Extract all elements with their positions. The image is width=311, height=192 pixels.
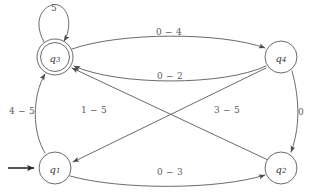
- edge-label-q4-to-q2: 0: [298, 107, 304, 117]
- state-node-q3[interactable]: q3: [37, 39, 73, 75]
- edge-label-q1-to-q3: 4 − 5: [9, 106, 35, 116]
- state-node-q2[interactable]: q2: [265, 152, 297, 184]
- edge-label-q4-to-q3: 0 − 2: [157, 71, 183, 81]
- edge-label-q2-to-q3: 3 − 5: [214, 105, 240, 115]
- state-node-q1[interactable]: q1: [39, 152, 71, 184]
- automaton-svg: q3 q4 q1 q2 5 0 − 4 0 − 2 4 − 5: [0, 0, 311, 192]
- states-layer: q3 q4 q1 q2: [37, 39, 297, 184]
- edge-q1-to-q3-left[interactable]: [35, 74, 45, 153]
- state-diagram-canvas: q3 q4 q1 q2 5 0 − 4 0 − 2 4 − 5: [0, 0, 311, 192]
- edge-labels-layer: 5 0 − 4 0 − 2 4 − 5 1 − 5 3 − 5 0 0 − 3: [9, 3, 304, 177]
- edge-label-q1-to-q2: 0 − 3: [157, 167, 183, 177]
- edge-label-q4-to-q1: 1 − 5: [81, 105, 107, 115]
- edge-label-q3-to-q4: 0 − 4: [156, 27, 182, 37]
- edge-label-q3-self-loop: 5: [51, 3, 57, 13]
- edge-q3-to-q4-top[interactable]: [72, 36, 265, 49]
- state-node-q4[interactable]: q4: [265, 41, 297, 73]
- edge-q4-to-q2-right[interactable]: [291, 71, 298, 152]
